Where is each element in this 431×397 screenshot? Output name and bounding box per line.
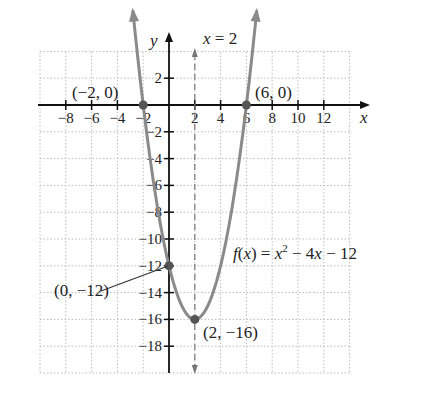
x-tick-label: −6: [84, 110, 100, 126]
y-tick-label: −10: [139, 231, 162, 247]
axis-of-symmetry: [192, 48, 198, 374]
x-tick-label: −8: [58, 110, 74, 126]
parabola-graph: −8−6−4−2246810122−2−4−6−8−10−12−14−16−18…: [0, 0, 431, 397]
y-tick-label: −16: [139, 311, 163, 327]
point-label-0-neg12: (0, −12): [54, 281, 109, 300]
key-point-marker: [139, 101, 148, 110]
key-point-marker: [165, 261, 174, 270]
key-point-marker: [242, 101, 251, 110]
y-axis-label: y: [148, 31, 158, 50]
symmetry-label: x = 2: [202, 29, 237, 48]
key-point-marker: [190, 315, 199, 324]
function-label: f(x) = x2 − 4x − 12: [233, 242, 357, 263]
point-label-6-0: (6, 0): [255, 83, 292, 102]
y-tick-label: −12: [139, 258, 162, 274]
x-tick-label: 10: [291, 110, 306, 126]
x-tick-label: −4: [109, 110, 125, 126]
point-label-vertex: (2, −16): [203, 323, 258, 342]
x-tick-label: 12: [316, 110, 331, 126]
y-tick-label: 2: [155, 70, 163, 86]
y-tick-label: −18: [139, 338, 162, 354]
x-axis-label: x: [359, 108, 368, 127]
y-tick-label: −14: [139, 285, 163, 301]
x-tick-label: 4: [217, 110, 225, 126]
point-label-neg2-0: (−2, 0): [72, 83, 118, 102]
x-tick-label: 8: [268, 110, 276, 126]
